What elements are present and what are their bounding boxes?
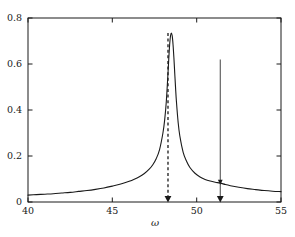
y-tick-label-4: 0.8 xyxy=(0,13,22,23)
plot-canvas xyxy=(0,0,295,237)
x-tick-label-3: 55 xyxy=(275,206,287,216)
x-tick-label-0: 40 xyxy=(22,206,34,216)
x-axis-ticks xyxy=(28,18,281,202)
resonance-curve xyxy=(28,33,281,195)
x-tick-label-2: 50 xyxy=(191,206,203,216)
resonance-response-chart: 0 0.2 0.4 0.6 0.8 40 45 50 55 ω xyxy=(0,0,295,237)
y-tick-label-3: 0.6 xyxy=(0,59,22,69)
dashed-arrow-peak xyxy=(165,33,172,203)
x-tick-label-1: 45 xyxy=(106,206,118,216)
x-axis-title: ω xyxy=(151,218,159,228)
y-tick-label-2: 0.4 xyxy=(0,105,22,115)
plot-frame xyxy=(28,18,281,202)
y-tick-label-1: 0.2 xyxy=(0,151,22,161)
solid-arrow-secondary xyxy=(217,59,224,202)
y-axis-ticks xyxy=(28,18,281,202)
y-tick-label-0: 0 xyxy=(0,197,22,207)
